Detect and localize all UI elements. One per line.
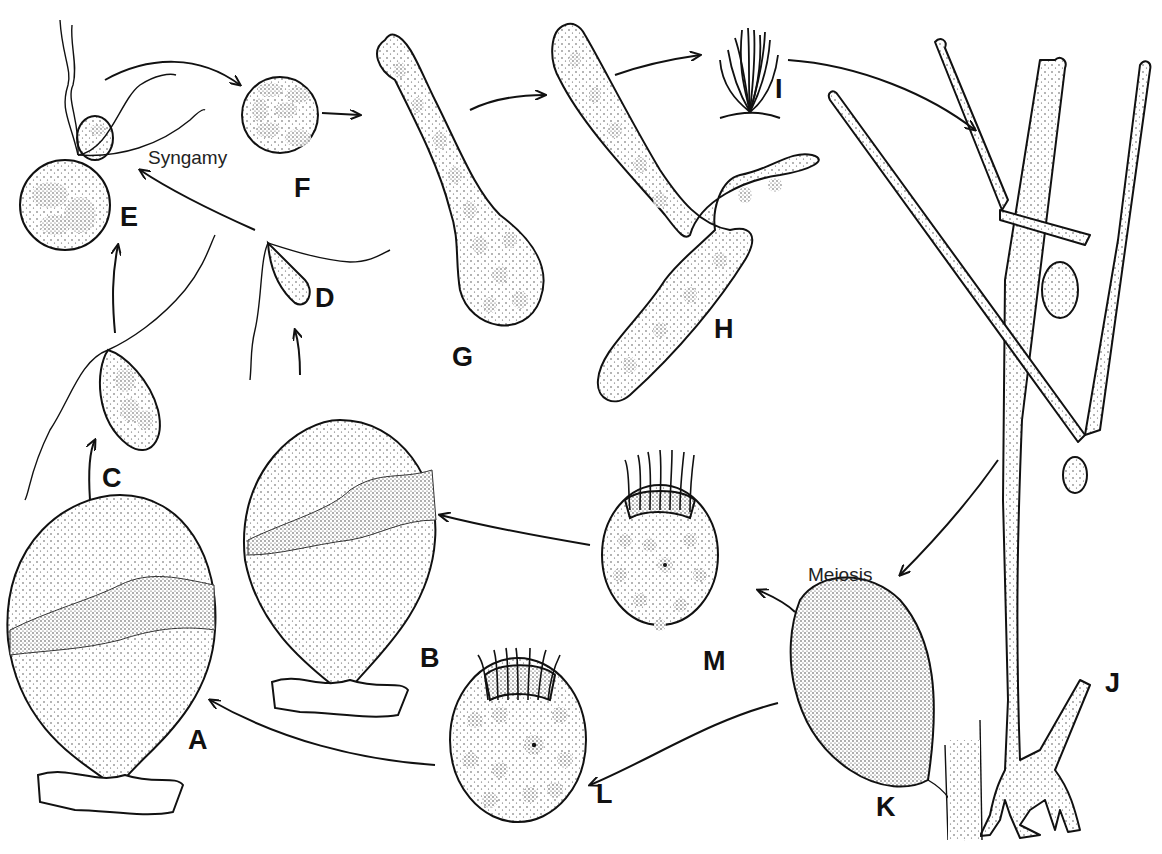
stage-label-h: H <box>714 316 734 343</box>
stage-g-illustration <box>377 34 544 325</box>
stage-b-illustration <box>244 420 436 717</box>
stage-label-f: F <box>294 175 311 202</box>
stage-label-i: I <box>775 76 783 103</box>
stage-label-a: A <box>188 727 208 754</box>
process-label-syngamy: Syngamy <box>148 148 227 167</box>
life-cycle-diagram <box>0 0 1162 854</box>
stage-m-illustration <box>602 450 718 631</box>
stage-label-e: E <box>120 204 138 231</box>
stage-i-illustration <box>720 28 780 118</box>
stage-label-k: K <box>876 794 896 821</box>
stage-label-g: G <box>452 344 473 371</box>
stage-label-c: C <box>102 465 122 492</box>
stage-e-illustration <box>20 20 205 250</box>
stage-c-illustration <box>25 235 215 500</box>
stage-a-illustration <box>7 495 215 814</box>
process-label-meiosis: Meiosis <box>808 565 872 584</box>
stage-label-j: J <box>1105 670 1120 697</box>
stage-label-d: D <box>315 285 335 312</box>
stage-l-illustration <box>450 648 586 822</box>
stage-label-m: M <box>703 648 726 675</box>
stage-f-illustration <box>242 77 318 153</box>
stage-label-l: L <box>596 781 613 808</box>
stage-label-b: B <box>420 645 440 672</box>
